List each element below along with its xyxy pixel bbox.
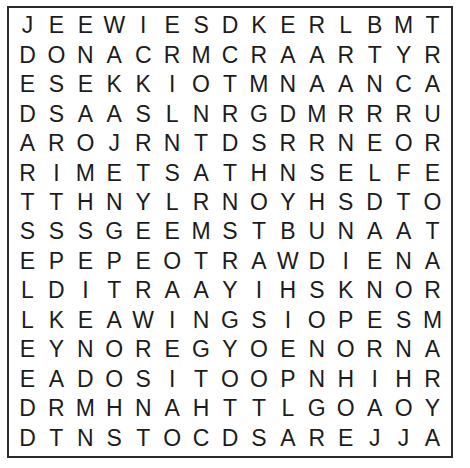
grid-cell[interactable]: N	[360, 276, 389, 305]
grid-cell[interactable]: G	[216, 306, 245, 335]
grid-cell[interactable]: R	[418, 276, 447, 305]
grid-cell[interactable]: H	[71, 188, 100, 217]
grid-cell[interactable]: P	[273, 365, 302, 394]
grid-cell[interactable]: M	[187, 217, 216, 246]
grid-cell[interactable]: B	[360, 11, 389, 40]
grid-cell[interactable]: A	[418, 335, 447, 364]
grid-cell[interactable]: E	[273, 335, 302, 364]
grid-cell[interactable]: L	[331, 11, 360, 40]
grid-cell[interactable]: D	[360, 188, 389, 217]
grid-cell[interactable]: I	[129, 11, 158, 40]
grid-cell[interactable]: E	[360, 129, 389, 158]
grid-cell[interactable]: L	[158, 188, 187, 217]
grid-cell[interactable]: D	[273, 99, 302, 128]
grid-cell[interactable]: R	[360, 335, 389, 364]
grid-cell[interactable]: T	[244, 217, 273, 246]
grid-cell[interactable]: T	[216, 158, 245, 187]
grid-cell[interactable]: M	[71, 158, 100, 187]
grid-cell[interactable]: R	[42, 394, 71, 423]
grid-cell[interactable]: I	[360, 365, 389, 394]
grid-cell[interactable]: O	[100, 335, 129, 364]
grid-cell[interactable]: K	[129, 70, 158, 99]
grid-cell[interactable]: A	[302, 70, 331, 99]
grid-cell[interactable]: N	[216, 188, 245, 217]
grid-cell[interactable]: O	[100, 365, 129, 394]
grid-cell[interactable]: R	[158, 40, 187, 69]
grid-cell[interactable]: S	[244, 424, 273, 453]
grid-cell[interactable]: R	[129, 335, 158, 364]
grid-cell[interactable]: Y	[129, 188, 158, 217]
grid-cell[interactable]: N	[273, 158, 302, 187]
grid-cell[interactable]: A	[13, 129, 42, 158]
grid-cell[interactable]: T	[42, 188, 71, 217]
grid-cell[interactable]: L	[158, 99, 187, 128]
grid-cell[interactable]: R	[331, 40, 360, 69]
grid-cell[interactable]: S	[187, 11, 216, 40]
grid-cell[interactable]: S	[129, 99, 158, 128]
grid-cell[interactable]: E	[71, 306, 100, 335]
grid-cell[interactable]: S	[13, 217, 42, 246]
grid-cell[interactable]: Y	[216, 335, 245, 364]
grid-cell[interactable]: W	[273, 247, 302, 276]
grid-cell[interactable]: W	[129, 306, 158, 335]
grid-cell[interactable]: N	[273, 70, 302, 99]
grid-cell[interactable]: N	[302, 335, 331, 364]
grid-cell[interactable]: O	[389, 394, 418, 423]
grid-cell[interactable]: A	[158, 276, 187, 305]
grid-cell[interactable]: O	[418, 188, 447, 217]
grid-cell[interactable]: C	[216, 40, 245, 69]
grid-cell[interactable]: R	[187, 188, 216, 217]
grid-cell[interactable]: A	[42, 365, 71, 394]
grid-cell[interactable]: E	[360, 247, 389, 276]
grid-cell[interactable]: D	[216, 129, 245, 158]
grid-cell[interactable]: U	[302, 217, 331, 246]
grid-cell[interactable]: G	[244, 99, 273, 128]
grid-cell[interactable]: S	[244, 129, 273, 158]
grid-cell[interactable]: T	[13, 188, 42, 217]
grid-cell[interactable]: N	[187, 99, 216, 128]
grid-cell[interactable]: H	[244, 158, 273, 187]
grid-cell[interactable]: C	[129, 40, 158, 69]
grid-cell[interactable]: S	[216, 217, 245, 246]
grid-cell[interactable]: O	[331, 394, 360, 423]
grid-cell[interactable]: D	[13, 99, 42, 128]
grid-cell[interactable]: O	[302, 306, 331, 335]
grid-cell[interactable]: R	[302, 11, 331, 40]
grid-cell[interactable]: A	[331, 70, 360, 99]
grid-cell[interactable]: O	[244, 335, 273, 364]
grid-cell[interactable]: O	[42, 40, 71, 69]
grid-cell[interactable]: C	[389, 70, 418, 99]
grid-cell[interactable]: E	[71, 247, 100, 276]
grid-cell[interactable]: N	[389, 335, 418, 364]
grid-cell[interactable]: E	[13, 247, 42, 276]
grid-cell[interactable]: R	[331, 99, 360, 128]
grid-cell[interactable]: M	[418, 306, 447, 335]
grid-cell[interactable]: D	[13, 424, 42, 453]
grid-cell[interactable]: A	[187, 158, 216, 187]
grid-cell[interactable]: I	[158, 365, 187, 394]
grid-cell[interactable]: J	[13, 11, 42, 40]
grid-cell[interactable]: N	[331, 217, 360, 246]
grid-cell[interactable]: O	[389, 129, 418, 158]
grid-cell[interactable]: T	[418, 217, 447, 246]
grid-cell[interactable]: H	[187, 394, 216, 423]
grid-cell[interactable]: M	[244, 70, 273, 99]
grid-cell[interactable]: A	[302, 40, 331, 69]
grid-cell[interactable]: H	[273, 276, 302, 305]
grid-cell[interactable]: I	[42, 158, 71, 187]
grid-cell[interactable]: A	[418, 247, 447, 276]
grid-cell[interactable]: L	[360, 158, 389, 187]
grid-cell[interactable]: T	[100, 276, 129, 305]
grid-cell[interactable]: D	[216, 424, 245, 453]
grid-cell[interactable]: K	[331, 276, 360, 305]
grid-cell[interactable]: E	[42, 11, 71, 40]
grid-cell[interactable]: Y	[389, 40, 418, 69]
grid-cell[interactable]: E	[71, 70, 100, 99]
grid-cell[interactable]: N	[187, 306, 216, 335]
grid-cell[interactable]: D	[42, 276, 71, 305]
grid-cell[interactable]: I	[158, 306, 187, 335]
grid-cell[interactable]: P	[331, 306, 360, 335]
grid-cell[interactable]: I	[273, 306, 302, 335]
grid-cell[interactable]: G	[302, 394, 331, 423]
grid-cell[interactable]: D	[302, 247, 331, 276]
